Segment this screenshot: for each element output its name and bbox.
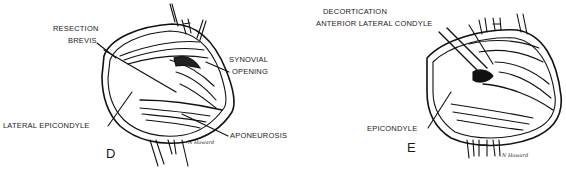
artist-signature-e: N Howard [502,152,528,158]
label-opening: OPENING [232,67,268,76]
label-synovial: SYNOVIAL [229,55,268,64]
label-decortication: DECORTICATION [323,7,387,16]
label-brevis: BREVIS [68,36,97,45]
panel-letter-d: D [106,146,115,161]
panel-d: RESECTION BREVIS SYNOVIAL OPENING LATERA… [0,0,283,169]
artist-signature-d: N Howard [188,139,214,145]
panel-letter-e: E [407,140,416,155]
label-anterior-lateral-condyle: ANTERIOR LATERAL CONDYLE [316,19,433,28]
label-epicondyle: EPICONDYLE [367,124,417,133]
label-aponeurosis: APONEUROSIS [230,131,287,140]
surgical-illustration-d [0,0,283,169]
label-lateral-epicondyle: LATERAL EPICONDYLE [3,121,90,130]
label-resection: RESECTION [53,24,99,33]
panel-e: DECORTICATION ANTERIOR LATERAL CONDYLE E… [283,0,566,169]
